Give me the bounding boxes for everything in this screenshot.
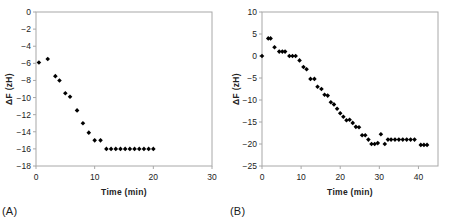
data-point xyxy=(37,60,42,65)
y-tick-label: −6 xyxy=(21,58,31,68)
y-axis-title: ΔF (zH) xyxy=(231,73,241,105)
y-tick-label: −10 xyxy=(243,95,258,105)
data-point xyxy=(128,147,133,152)
y-tick-label: 10 xyxy=(248,7,258,17)
figure-container: 0−2−4−6−8−10−12−14−16−180102030Time (min… xyxy=(0,0,455,218)
data-point xyxy=(87,130,92,135)
data-point xyxy=(268,36,273,41)
plot-frame xyxy=(36,12,212,166)
chart-panel-b: 1050−5−10−15−20−25010203040Time (min)ΔF … xyxy=(228,0,455,218)
y-tick-label: −5 xyxy=(247,73,257,83)
plot-frame xyxy=(262,12,438,166)
data-point xyxy=(123,147,128,152)
data-point xyxy=(137,147,142,152)
x-tick-label: 0 xyxy=(34,172,39,182)
data-point xyxy=(68,94,73,99)
y-tick-label: −18 xyxy=(17,161,32,171)
y-tick-label: −16 xyxy=(17,144,32,154)
data-point xyxy=(132,147,137,152)
panel-a-label: (A) xyxy=(2,205,17,217)
data-point xyxy=(408,137,413,142)
data-point xyxy=(308,77,313,82)
panel-b-label: (B) xyxy=(230,205,245,217)
data-point xyxy=(363,133,368,138)
y-tick-label: 0 xyxy=(252,51,257,61)
x-tick-label: 20 xyxy=(149,172,159,182)
y-tick-label: 0 xyxy=(26,7,31,17)
data-point xyxy=(109,147,114,152)
x-tick-label: 30 xyxy=(375,172,385,182)
data-point xyxy=(272,45,277,50)
data-point xyxy=(45,57,50,62)
y-tick-label: 5 xyxy=(252,29,257,39)
y-tick-label: −20 xyxy=(243,139,258,149)
data-point xyxy=(98,138,103,143)
data-point xyxy=(312,77,317,82)
x-tick-label: 20 xyxy=(335,172,345,182)
data-point xyxy=(57,78,62,83)
x-tick-label: 30 xyxy=(207,172,217,182)
data-point xyxy=(357,125,362,130)
data-point xyxy=(347,118,352,123)
data-point xyxy=(383,142,388,147)
data-point xyxy=(151,147,156,152)
data-point xyxy=(81,121,86,126)
data-point xyxy=(113,147,118,152)
data-point xyxy=(389,137,394,142)
data-point xyxy=(425,143,430,148)
data-point xyxy=(366,137,371,142)
chart-panel-a: 0−2−4−6−8−10−12−14−16−180102030Time (min… xyxy=(0,0,227,218)
x-axis-title: Time (min) xyxy=(101,187,147,197)
data-point xyxy=(315,85,320,90)
x-tick-label: 40 xyxy=(414,172,424,182)
data-point xyxy=(92,138,97,143)
data-point xyxy=(75,108,80,113)
y-tick-label: −12 xyxy=(17,110,32,120)
data-point xyxy=(397,137,402,142)
y-tick-label: −25 xyxy=(243,161,258,171)
data-series xyxy=(260,36,430,147)
y-tick-label: −4 xyxy=(21,41,31,51)
x-tick-label: 0 xyxy=(260,172,265,182)
data-series xyxy=(37,57,156,151)
data-point xyxy=(293,54,298,59)
data-point xyxy=(63,91,68,96)
data-point xyxy=(283,49,288,54)
data-point xyxy=(350,121,355,126)
y-tick-label: −2 xyxy=(21,24,31,34)
x-tick-label: 10 xyxy=(90,172,100,182)
data-point xyxy=(338,111,343,116)
x-tick-label: 10 xyxy=(296,172,306,182)
data-point xyxy=(146,147,151,152)
data-point xyxy=(53,74,58,79)
data-point xyxy=(260,54,265,59)
y-tick-label: −15 xyxy=(243,117,258,127)
data-point xyxy=(401,137,406,142)
data-point xyxy=(412,137,417,142)
data-point xyxy=(393,137,398,142)
y-axis-title: ΔF (zH) xyxy=(4,73,14,105)
data-point xyxy=(118,147,123,152)
data-point xyxy=(335,107,340,112)
scatter-plot-a: 0−2−4−6−8−10−12−14−16−180102030Time (min… xyxy=(0,0,227,200)
data-point xyxy=(142,147,147,152)
data-point xyxy=(319,87,324,92)
y-tick-label: −10 xyxy=(17,93,32,103)
data-point xyxy=(341,114,346,119)
data-point xyxy=(404,137,409,142)
y-tick-label: −14 xyxy=(17,127,32,137)
data-point xyxy=(297,58,302,63)
data-point xyxy=(104,147,109,152)
y-tick-label: −8 xyxy=(21,75,31,85)
data-point xyxy=(379,132,384,137)
scatter-plot-b: 1050−5−10−15−20−25010203040Time (min)ΔF … xyxy=(228,0,455,200)
x-axis-title: Time (min) xyxy=(327,187,373,197)
